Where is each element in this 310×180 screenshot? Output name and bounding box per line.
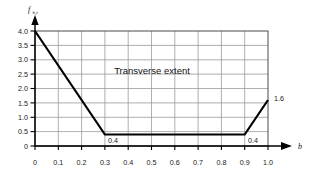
y-tick-label: 0.5 [18,127,28,136]
y-tick-label: 2.0 [18,84,28,93]
chart-background [0,0,310,180]
y-tick-label: 0 [24,142,28,151]
chart-figure: 4.0 3.5 3.0 2.5 2.0 1.5 1.0 0.5 0 0 [0,0,310,180]
x-tick-label: 0.4 [123,158,133,167]
y-tick-label: 1.5 [18,99,28,108]
x-tick-label: 0.6 [170,158,180,167]
x-tick-label: 0.9 [240,158,250,167]
x-tick-label: 0.3 [100,158,110,167]
y-tick-label: 3.0 [18,55,28,64]
x-tick-label: 0.1 [53,158,63,167]
x-tick-label: 0 [33,158,37,167]
y-tick-label: 2.5 [18,70,28,79]
point-label-left: 0.4 [108,136,118,145]
point-label-peak: 1.6 [274,94,284,103]
chart-annotation: Transverse extent [114,65,190,76]
x-tick-label: 0.7 [193,158,203,167]
y-tick-label: 1.0 [18,113,28,122]
y-axis-tick-labels: 4.0 3.5 3.0 2.5 2.0 1.5 1.0 0.5 0 [18,27,28,151]
point-label-right: 0.4 [248,136,258,145]
x-axis-label: b [298,142,302,151]
x-tick-label: 0.5 [147,158,157,167]
y-tick-label: 3.5 [18,41,28,50]
x-tick-label: 0.8 [216,158,226,167]
y-tick-label: 4.0 [18,27,28,36]
x-tick-label: 1.0 [263,158,273,167]
x-tick-label: 0.2 [77,158,87,167]
transverse-extent-chart: 4.0 3.5 3.0 2.5 2.0 1.5 1.0 0.5 0 0 [0,0,310,180]
